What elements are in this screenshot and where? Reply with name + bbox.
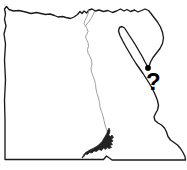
- egypt-outline-map-figure: ?: [0, 0, 187, 170]
- question-mark-label: ?: [146, 70, 161, 94]
